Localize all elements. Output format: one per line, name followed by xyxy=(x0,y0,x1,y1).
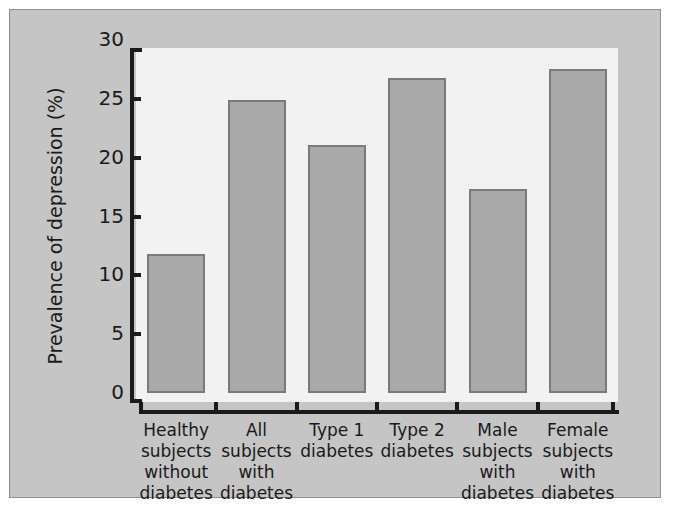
y-axis-tick xyxy=(130,273,141,277)
y-axis-top-cap xyxy=(130,48,142,52)
x-axis-separator xyxy=(536,402,540,414)
chart-panel: 051015202530 Prevalence of depression (%… xyxy=(9,9,661,498)
x-axis-category-label-line: Type 1 xyxy=(297,420,377,441)
x-axis-category-label: Malesubjectswithdiabetes xyxy=(457,420,537,504)
x-axis-category-label-line: subjects xyxy=(216,441,296,462)
x-axis-separator xyxy=(139,402,143,414)
x-axis-category-label-line: Male xyxy=(457,420,537,441)
x-axis-category-label: Type 1diabetes xyxy=(297,420,377,462)
x-axis-separator xyxy=(611,402,615,414)
y-axis-tick-labels: 051015202530 xyxy=(60,10,124,499)
x-axis-category-label-line: Female xyxy=(538,420,618,441)
x-axis-category-label-line: subjects xyxy=(136,441,216,462)
y-axis-tick xyxy=(130,97,141,101)
x-axis-category-label-line: with xyxy=(216,462,296,483)
x-axis-category-label-line: diabetes xyxy=(297,441,377,462)
x-axis-category-label-line: All xyxy=(216,420,296,441)
x-axis-category-label-line: diabetes xyxy=(457,483,537,504)
x-axis-category-label-line: without xyxy=(136,462,216,483)
bar xyxy=(228,100,286,393)
x-axis-category-label-line: diabetes xyxy=(216,483,296,504)
x-axis-category-label-line: with xyxy=(538,462,618,483)
figure-container: 051015202530 Prevalence of depression (%… xyxy=(0,0,676,530)
y-axis-tick-label: 5 xyxy=(66,323,124,343)
bar xyxy=(549,69,607,393)
y-axis-tick-label: 30 xyxy=(66,29,124,49)
x-axis-category-label-line: subjects xyxy=(538,441,618,462)
x-axis-category-label-line: subjects xyxy=(457,441,537,462)
x-axis-category-label-line: Type 2 xyxy=(377,420,457,441)
bar xyxy=(147,254,205,393)
y-axis-line xyxy=(130,48,134,403)
x-axis-category-label-line: diabetes xyxy=(377,441,457,462)
x-axis-separator xyxy=(455,402,459,414)
x-axis-line xyxy=(141,410,619,414)
y-axis-title: Prevalence of depression (%) xyxy=(44,46,66,406)
y-axis-tick-label: 15 xyxy=(66,206,124,226)
bar xyxy=(308,145,366,393)
plot-area xyxy=(136,48,618,402)
y-axis-tick-label: 10 xyxy=(66,264,124,284)
x-axis-category-label-line: with xyxy=(457,462,537,483)
x-axis-separator xyxy=(214,402,218,414)
x-axis-category-label-line: Healthy xyxy=(136,420,216,441)
x-axis-separator xyxy=(375,402,379,414)
y-axis-tick-label: 0 xyxy=(66,382,124,402)
y-axis-tick xyxy=(130,156,141,160)
x-axis-category-label-line: diabetes xyxy=(538,483,618,504)
y-axis-tick-label: 20 xyxy=(66,147,124,167)
x-axis-category-label: Healthysubjectswithoutdiabetes xyxy=(136,420,216,504)
x-axis-category-label: Type 2diabetes xyxy=(377,420,457,462)
x-axis-category-label: Allsubjectswithdiabetes xyxy=(216,420,296,504)
x-axis-category-label: Femalesubjectswithdiabetes xyxy=(538,420,618,504)
y-axis-tick-label: 25 xyxy=(66,88,124,108)
bar xyxy=(469,189,527,393)
y-axis-tick xyxy=(130,332,141,336)
x-axis-separator xyxy=(295,402,299,414)
x-axis-category-label-line: diabetes xyxy=(136,483,216,504)
bar xyxy=(388,78,446,393)
y-axis-tick xyxy=(130,215,141,219)
